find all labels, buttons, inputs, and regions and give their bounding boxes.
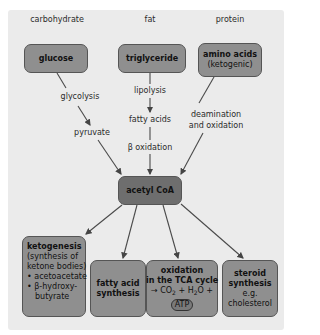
label-beta-oxidation: β oxidation — [124, 143, 176, 153]
ketogenesis-title: ketogenesis — [27, 242, 81, 252]
label-fatty-acids: fatty acids — [126, 115, 174, 125]
triglyceride-label: triglyceride — [126, 54, 178, 64]
atp-badge: ATP — [171, 299, 194, 311]
fatty-acid-line1: fatty acid — [96, 279, 139, 289]
box-triglyceride: triglyceride — [118, 44, 186, 73]
bullet-acetoacetate: • acetoacetate — [27, 272, 87, 282]
box-fatty-acid-synthesis: fatty acid synthesis — [90, 260, 146, 317]
acetyl-coa-label: acetyl CoA — [126, 186, 174, 196]
glucose-label: glucose — [39, 54, 74, 64]
steroid-line4: cholesterol — [228, 299, 272, 309]
ketogenesis-sub1: (synthesis of — [27, 252, 78, 262]
box-steroid-synthesis: steroid synthesis e.g. cholesterol — [222, 260, 278, 317]
eq-co: → CO — [151, 286, 172, 295]
bullet-beta-hydroxy: • β-hydroxy- — [27, 282, 77, 292]
ketogenesis-sub2: ketone bodies) — [27, 262, 86, 272]
fatty-acid-line2: synthesis — [97, 289, 140, 299]
label-glycolysis: glycolysis — [58, 92, 102, 102]
label-deamination: deamination — [186, 110, 246, 120]
amino-acids-label: amino acids — [203, 50, 257, 60]
bullet-butyrate: butyrate — [27, 292, 69, 302]
steroid-line3: e.g. — [242, 289, 257, 299]
steroid-line2: synthesis — [229, 279, 272, 289]
steroid-line1: steroid — [234, 269, 266, 279]
eq-o: O + — [198, 286, 214, 295]
eq-h: + H — [176, 286, 194, 295]
oxidation-equation: → CO2 + H2O + — [151, 286, 213, 298]
label-and-oxidation: and oxidation — [186, 121, 246, 131]
box-acetyl-coa: acetyl CoA — [118, 176, 182, 205]
label-fat: fat — [130, 15, 170, 25]
oxidation-line1: oxidation — [161, 266, 203, 276]
label-protein: protein — [208, 15, 252, 25]
label-pyruvate: pyruvate — [72, 128, 112, 138]
label-carbohydrate: carbohydrate — [26, 15, 88, 25]
oxidation-line2: in the TCA cycle — [146, 276, 218, 286]
box-ketogenesis: ketogenesis (synthesis of ketone bodies)… — [22, 236, 86, 317]
label-lipolysis: lipolysis — [130, 86, 170, 96]
box-tca-oxidation: oxidation in the TCA cycle → CO2 + H2O +… — [146, 260, 218, 317]
box-glucose: glucose — [24, 44, 88, 73]
box-amino-acids: amino acids (ketogenic) — [198, 43, 262, 77]
ketogenic-label: (ketogenic) — [207, 60, 252, 70]
